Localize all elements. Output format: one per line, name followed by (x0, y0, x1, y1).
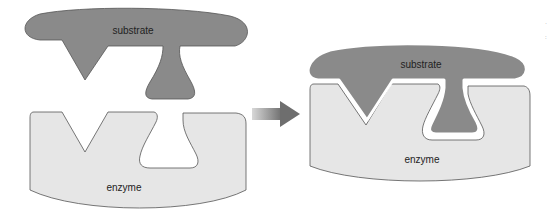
left-enzyme-label: enzyme (106, 182, 141, 193)
right-enzyme: enzyme (310, 84, 530, 181)
right-substrate-label: substrate (400, 59, 442, 70)
arrow-icon (252, 101, 300, 127)
page-edge-marks: ·: (545, 16, 547, 44)
left-substrate: substrate (25, 8, 248, 99)
left-enzyme: enzyme (30, 112, 246, 208)
right-enzyme-label: enzyme (404, 154, 439, 165)
left-substrate-label: substrate (112, 25, 154, 36)
enzyme-substrate-diagram: substrate enzyme enzyme substrate (0, 0, 553, 213)
